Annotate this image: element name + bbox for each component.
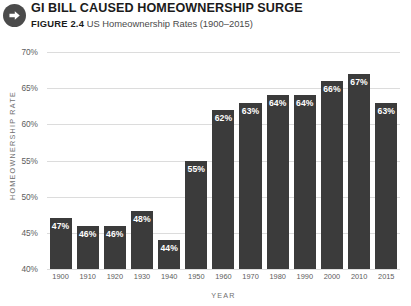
bar[interactable]: 44% xyxy=(158,240,180,269)
bar-slot: 55% xyxy=(183,52,210,269)
figure-number: FIGURE 2.4 xyxy=(31,18,84,29)
bar-value-label: 66% xyxy=(321,84,343,94)
bar-slot: 44% xyxy=(156,52,183,269)
y-axis-ticks: 70%65%60%55%50%45%40% xyxy=(0,52,45,269)
bar[interactable]: 66% xyxy=(321,81,343,269)
page-title: GI BILL CAUSED HOMEOWNERSHIP SURGE xyxy=(31,1,303,15)
bar[interactable]: 62% xyxy=(212,110,234,269)
y-tick-label: 60% xyxy=(21,119,38,129)
bar-chart: HOMEOWNERSHIP RATE YEAR 70%65%60%55%50%4… xyxy=(0,36,411,306)
bar-slot: 46% xyxy=(101,52,128,269)
bar-value-label: 62% xyxy=(212,113,234,123)
bar-value-label: 46% xyxy=(77,229,99,239)
bar-slot: 64% xyxy=(291,52,318,269)
x-tick-label: 2015 xyxy=(373,272,400,281)
bar-value-label: 67% xyxy=(348,77,370,87)
y-tick-label: 50% xyxy=(21,192,38,202)
x-tick-label: 1980 xyxy=(264,272,291,281)
x-tick-label: 1990 xyxy=(291,272,318,281)
figure-caption: FIGURE 2.4 US Homeownership Rates (1900–… xyxy=(31,18,253,29)
arrow-right-circle-icon xyxy=(3,4,26,27)
y-tick-label: 70% xyxy=(21,47,38,57)
x-tick-label: 1930 xyxy=(128,272,155,281)
x-tick-label: 1970 xyxy=(237,272,264,281)
bar-value-label: 63% xyxy=(375,106,397,116)
bar-value-label: 44% xyxy=(158,243,180,253)
bar[interactable]: 48% xyxy=(131,211,153,269)
bar-series: 47%46%46%48%44%55%62%63%64%64%66%67%63% xyxy=(47,52,400,269)
figure-caption-text: US Homeownership Rates (1900–2015) xyxy=(87,18,253,29)
x-tick-label: 1920 xyxy=(101,272,128,281)
x-tick-label: 1950 xyxy=(183,272,210,281)
gridline xyxy=(47,269,400,270)
bar-value-label: 48% xyxy=(131,214,153,224)
y-tick-label: 55% xyxy=(21,156,38,166)
bar[interactable]: 55% xyxy=(185,161,207,270)
bar-slot: 66% xyxy=(318,52,345,269)
x-axis-title: YEAR xyxy=(47,291,400,300)
x-tick-label: 2000 xyxy=(318,272,345,281)
bar-slot: 64% xyxy=(264,52,291,269)
bar-slot: 46% xyxy=(74,52,101,269)
bar[interactable]: 63% xyxy=(375,103,397,269)
bar-slot: 67% xyxy=(346,52,373,269)
bar-value-label: 47% xyxy=(50,221,72,231)
bar[interactable]: 67% xyxy=(348,74,370,269)
bar-value-label: 64% xyxy=(294,98,316,108)
bar[interactable]: 64% xyxy=(294,95,316,269)
bar-value-label: 55% xyxy=(185,164,207,174)
bar-slot: 48% xyxy=(128,52,155,269)
bar[interactable]: 46% xyxy=(77,226,99,269)
y-tick-label: 40% xyxy=(21,264,38,274)
x-tick-label: 1910 xyxy=(74,272,101,281)
bar-value-label: 64% xyxy=(267,98,289,108)
x-tick-label: 2010 xyxy=(346,272,373,281)
bar[interactable]: 63% xyxy=(239,103,261,269)
x-axis-ticks: 1900191019201930194019501960197019801990… xyxy=(47,272,400,281)
bar-slot: 63% xyxy=(373,52,400,269)
bar-slot: 63% xyxy=(237,52,264,269)
bar-slot: 62% xyxy=(210,52,237,269)
y-tick-label: 65% xyxy=(21,83,38,93)
figure-header: GI BILL CAUSED HOMEOWNERSHIP SURGE FIGUR… xyxy=(0,0,411,36)
plot-area: 47%46%46%48%44%55%62%63%64%64%66%67%63% xyxy=(47,52,400,269)
bar[interactable]: 46% xyxy=(104,226,126,269)
y-tick-label: 45% xyxy=(21,228,38,238)
x-tick-label: 1900 xyxy=(47,272,74,281)
bar-value-label: 46% xyxy=(104,229,126,239)
bar-value-label: 63% xyxy=(239,106,261,116)
figure-container: GI BILL CAUSED HOMEOWNERSHIP SURGE FIGUR… xyxy=(0,0,411,306)
bar[interactable]: 47% xyxy=(50,218,72,269)
bar-slot: 47% xyxy=(47,52,74,269)
bar[interactable]: 64% xyxy=(267,95,289,269)
x-tick-label: 1940 xyxy=(156,272,183,281)
x-tick-label: 1960 xyxy=(210,272,237,281)
